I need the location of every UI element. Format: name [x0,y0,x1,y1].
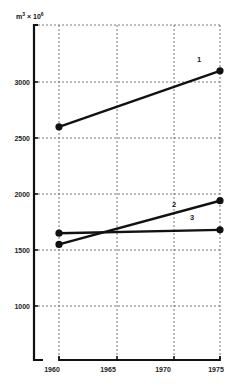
svg-text:1965: 1965 [100,366,116,373]
svg-text:1975: 1975 [208,366,224,373]
svg-text:1500: 1500 [14,247,30,254]
series-3: 3 [55,213,223,237]
svg-text:1970: 1970 [155,366,171,373]
series-2: 2 [55,197,223,248]
series-1: 1 [55,55,223,130]
svg-text:3: 3 [190,213,194,222]
series-lines: 123 [55,55,223,248]
axes [34,25,220,360]
grid [34,25,220,360]
svg-text:2000: 2000 [14,191,30,198]
line-chart: 123 100015002000250030001960196519701975 [0,0,245,388]
svg-text:2: 2 [172,200,176,209]
svg-text:1960: 1960 [44,366,60,373]
tick-labels: 100015002000250030001960196519701975 [14,79,223,373]
svg-text:1000: 1000 [14,303,30,310]
svg-text:2500: 2500 [14,135,30,142]
svg-text:1: 1 [197,55,201,64]
svg-text:3000: 3000 [14,79,30,86]
